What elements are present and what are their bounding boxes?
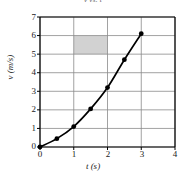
shaded-region-layer [74,36,108,55]
data-point-marker [38,145,43,150]
area-under-curve-cell [74,36,108,55]
data-point-marker [71,124,76,129]
plot-area [0,0,186,180]
data-point-marker [122,57,127,62]
data-point-marker [105,85,110,90]
data-point-marker [88,107,93,112]
velocity-time-chart: v vs. t v (m/s) t (s) 7 6 5 4 3 2 1 0 0 … [0,0,186,180]
gridlines-layer [40,17,175,147]
data-point-marker [139,31,144,36]
data-point-marker [54,136,59,141]
